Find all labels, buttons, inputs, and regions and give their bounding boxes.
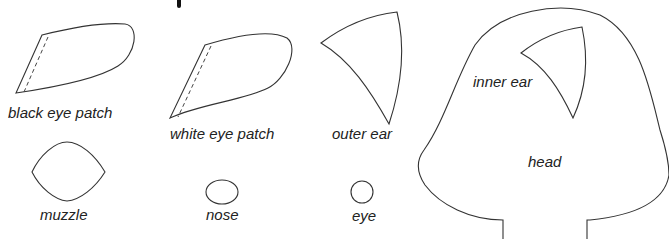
nose-label: nose — [206, 206, 239, 223]
head-label: head — [528, 153, 561, 170]
eye-label: eye — [352, 207, 376, 224]
muzzle-shape — [32, 142, 105, 201]
black-eye-patch-shape — [16, 24, 134, 93]
eye-shape — [351, 181, 373, 203]
head-shape — [418, 8, 669, 239]
white-eye-patch-shape — [170, 34, 292, 118]
black-eye-patch-label: black eye patch — [8, 104, 112, 121]
white-eye-patch-label: white eye patch — [170, 125, 274, 142]
outer-ear-label: outer ear — [332, 125, 392, 142]
nose-shape — [206, 180, 238, 204]
muzzle-label: muzzle — [40, 206, 88, 223]
outer-ear-shape — [321, 12, 402, 124]
inner-ear-label: inner ear — [473, 73, 532, 90]
